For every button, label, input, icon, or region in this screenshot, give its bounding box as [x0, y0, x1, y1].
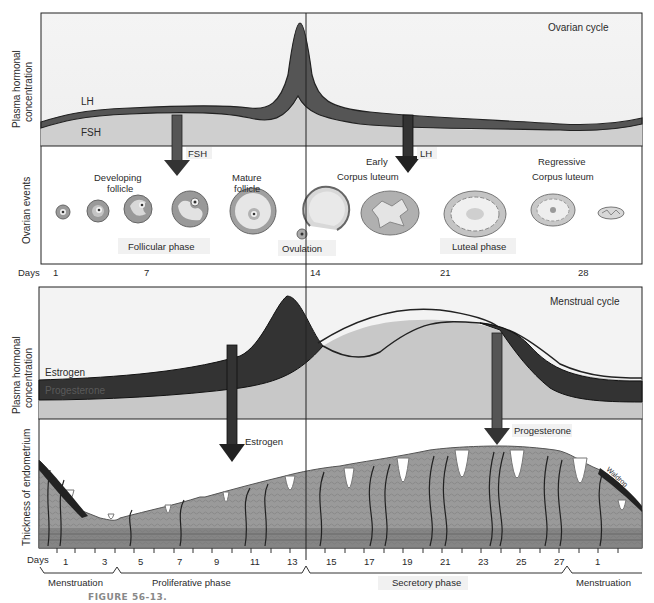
ovarian-y-axis-label-1: Plasma hormonal: [11, 50, 22, 128]
ovarian-cycle-title: Ovarian cycle: [548, 22, 609, 33]
day-tick-15: 15: [326, 556, 337, 567]
menstrual-days-label: Days: [27, 554, 49, 565]
menstruation-phase-label-next: Menstruation: [576, 577, 631, 588]
day-tick-17: 17: [364, 556, 375, 567]
regressive-corpus-luteum-label-2: Corpus luteum: [532, 171, 594, 182]
estrogen-arrow-label: Estrogen: [245, 436, 283, 447]
day-tick-23: 23: [478, 556, 489, 567]
mature-follicle-label-2: follicle: [234, 183, 260, 194]
menstrual-y-axis-label-1: Plasma hormonal: [11, 336, 22, 414]
endometrium-axis-label: Thickness of endometrium: [21, 429, 32, 546]
ovarian-days-label: Days: [18, 267, 40, 278]
ovarian-days-axis: Days 1 7 14 21 28: [18, 267, 589, 278]
ovarian-day-tick-7: 7: [144, 267, 149, 278]
early-corpus-luteum-label-2: Corpus luteum: [337, 171, 399, 182]
menstrual-cycle-title: Menstrual cycle: [550, 296, 620, 307]
early-corpus-luteum: [361, 191, 419, 235]
early-corpus-luteum-label-1: Early: [366, 156, 388, 167]
day-tick-1-next: 1: [595, 556, 600, 567]
ovarian-day-tick-14: 14: [310, 267, 321, 278]
ovarian-y-axis-label-2: concentration: [23, 62, 34, 122]
developing-follicle-label-2: follicle: [107, 183, 133, 194]
ovarian-day-tick-28: 28: [578, 267, 589, 278]
progesterone-arrow-label: Progesterone: [514, 425, 571, 436]
day-tick-21: 21: [440, 556, 451, 567]
luteal-corpus-luteum: [444, 191, 506, 237]
day-tick-3: 3: [102, 556, 107, 567]
phase-braces: [40, 566, 642, 573]
fsh-label: FSH: [81, 127, 101, 138]
day-tick-27: 27: [554, 556, 565, 567]
day-tick-1: 1: [63, 556, 68, 567]
secretory-phase-label: Secretory phase: [392, 577, 461, 588]
figure-caption: FIGURE 56-13.: [88, 592, 167, 602]
endometrium-panel: Thickness of endometrium: [21, 419, 642, 548]
menstrual-cycle-figure: LH FSH Ovarian cycle Plasma hormonal con…: [0, 0, 654, 603]
regressive-corpus-luteum-label-1: Regressive: [538, 156, 586, 167]
day-tick-13: 13: [287, 556, 298, 567]
proliferative-phase-label: Proliferative phase: [152, 577, 231, 588]
regressive-corpus-luteum: [531, 194, 575, 226]
follicular-phase-label: Follicular phase: [128, 241, 195, 252]
follicle-1: [56, 205, 70, 219]
follicle-mature: [230, 188, 276, 234]
menstruation-phase-label: Menstruation: [48, 577, 103, 588]
fsh-arrow-label: FSH: [188, 148, 207, 159]
day-tick-19: 19: [402, 556, 413, 567]
follicle-4: [172, 191, 208, 227]
follicle-2: [87, 200, 109, 222]
day-tick-5: 5: [138, 556, 143, 567]
ovarian-events-panel: Ovarian events: [21, 146, 642, 264]
menstrual-days-axis: Days 1 3 5 7 9 11 13 15 17 19 21 23 25 2…: [27, 548, 642, 590]
estrogen-label: Estrogen: [45, 367, 85, 378]
day-tick-9: 9: [214, 556, 219, 567]
menstrual-hormone-panel: Menstrual cycle Estrogen Progesterone: [39, 287, 642, 419]
mature-follicle-label-1: Mature: [232, 172, 262, 183]
corpus-albicans: [598, 207, 624, 219]
day-tick-25: 25: [516, 556, 527, 567]
ovarian-hormone-panel: LH FSH Ovarian cycle: [41, 13, 642, 146]
luteal-phase-label: Luteal phase: [452, 241, 506, 252]
progesterone-label: Progesterone: [45, 385, 105, 396]
menstrual-y-axis-label-2: concentration: [23, 348, 34, 408]
ovarian-day-tick-1: 1: [53, 267, 58, 278]
day-tick-11: 11: [250, 556, 260, 567]
ovulation-label: Ovulation: [282, 243, 322, 254]
developing-follicle-label-1: Developing: [94, 172, 142, 183]
day-tick-7: 7: [177, 556, 182, 567]
follicle-3: [124, 195, 152, 223]
lh-arrow-label: LH: [420, 148, 432, 159]
ovarian-events-axis-label: Ovarian events: [21, 177, 32, 244]
ovarian-day-tick-21: 21: [440, 267, 451, 278]
lh-label: LH: [81, 96, 94, 107]
